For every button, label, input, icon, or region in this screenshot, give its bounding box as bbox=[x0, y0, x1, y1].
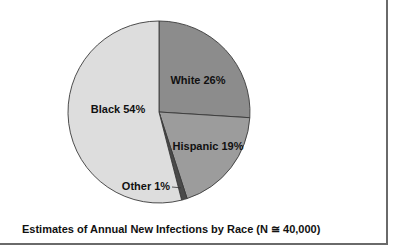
chart-title: Estimates of Annual New Infections by Ra… bbox=[22, 223, 320, 236]
pie-slice-white bbox=[159, 21, 250, 118]
pie-chart: White 26%Hispanic 19%Other 1%Black 54% bbox=[0, 0, 406, 250]
slice-label-hispanic: Hispanic 19% bbox=[173, 140, 244, 152]
slice-label-other: Other 1% bbox=[122, 180, 171, 192]
slice-label-black: Black 54% bbox=[91, 103, 146, 115]
slice-label-white: White 26% bbox=[170, 74, 225, 86]
